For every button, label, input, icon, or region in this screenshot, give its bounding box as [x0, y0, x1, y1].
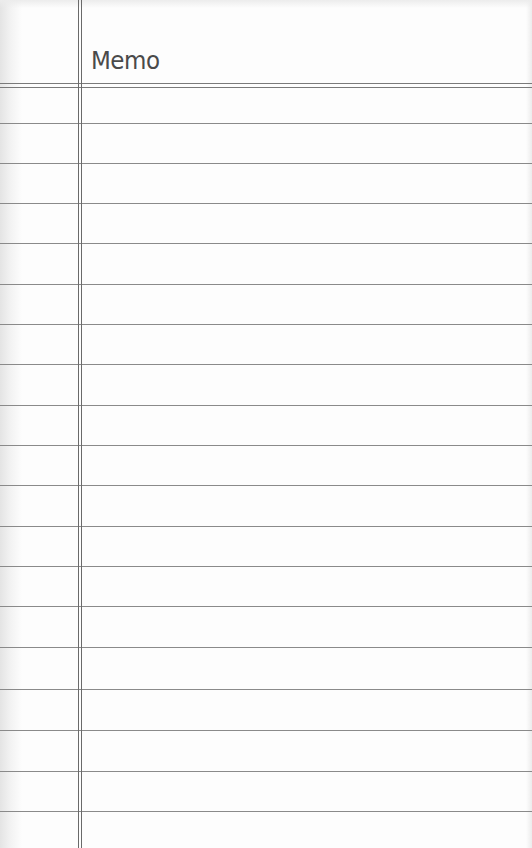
ruled-line [0, 771, 532, 772]
ruled-line [0, 123, 532, 124]
ruled-line [0, 364, 532, 365]
ruled-line [0, 647, 532, 648]
ruled-line [0, 811, 532, 812]
ruled-line [0, 689, 532, 690]
ruled-line [0, 243, 532, 244]
margin-line-right [81, 0, 82, 848]
ruled-line [0, 284, 532, 285]
ruled-line [0, 606, 532, 607]
ruled-line [0, 526, 532, 527]
header-rule-bottom [0, 87, 532, 88]
ruled-line [0, 405, 532, 406]
ruled-line [0, 163, 532, 164]
ruled-line [0, 445, 532, 446]
header-rule-top [0, 83, 532, 84]
paper-edge-shadow-top [0, 0, 532, 8]
ruled-line [0, 730, 532, 731]
memo-page: Memo [0, 0, 532, 848]
page-title: Memo [91, 47, 159, 74]
margin-line-left [78, 0, 79, 848]
ruled-line [0, 566, 532, 567]
paper-edge-shadow-right [526, 0, 532, 848]
ruled-line [0, 485, 532, 486]
ruled-line [0, 324, 532, 325]
paper-edge-shadow-left [0, 0, 22, 848]
ruled-line [0, 203, 532, 204]
